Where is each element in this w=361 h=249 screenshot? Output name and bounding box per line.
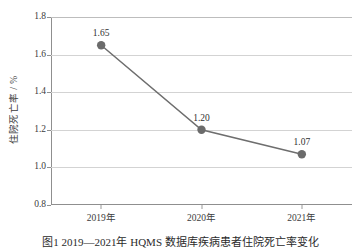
y-tick-mark [47, 205, 51, 206]
y-tick-mark [47, 130, 51, 131]
y-tick-label: 1.8 [24, 11, 46, 21]
x-tick-mark [201, 205, 202, 209]
x-tick-mark [301, 205, 302, 209]
figure-container: 住院死亡率 / % 0.81.01.21.41.61.8 2019年2020年2… [0, 0, 361, 249]
figure-caption-text: 图1 2019—2021年 HQMS 数据库疾病患者住院死亡率变化 [42, 236, 319, 248]
data-point-label: 1.07 [294, 137, 311, 147]
x-tick-label: 2020年 [187, 210, 216, 224]
y-tick-mark [47, 55, 51, 56]
y-tick-label: 1.6 [24, 49, 46, 59]
y-tick-mark [47, 17, 51, 18]
y-tick-label: 1.2 [24, 124, 46, 134]
data-point-marker[interactable] [97, 41, 105, 49]
x-tick-label: 2021年 [287, 210, 316, 224]
figure-caption: 图1 2019—2021年 HQMS 数据库疾病患者住院死亡率变化 [0, 236, 361, 249]
x-tick-label: 2019年 [87, 210, 116, 224]
y-axis-title-text: 住院死亡率 / % [6, 76, 20, 145]
y-tick-mark [47, 92, 51, 93]
x-tick-mark [101, 205, 102, 209]
y-axis-title: 住院死亡率 / % [2, 45, 24, 175]
data-point-marker[interactable] [197, 126, 205, 134]
y-tick-mark [47, 167, 51, 168]
data-point-label: 1.65 [93, 28, 110, 38]
y-tick-label: 1.0 [24, 161, 46, 171]
y-tick-label: 1.4 [24, 86, 46, 96]
data-point-label: 1.20 [193, 113, 210, 123]
series-line-group [51, 17, 352, 205]
plot-area [51, 17, 352, 205]
y-tick-label: 0.8 [24, 199, 46, 209]
data-point-marker[interactable] [298, 150, 306, 158]
series-line [101, 45, 302, 154]
